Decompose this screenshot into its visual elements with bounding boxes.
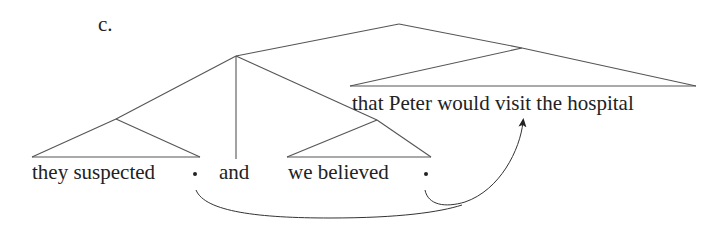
branch-root-left [236,24,399,56]
example-label: c. [98,12,113,36]
arrow-from-right-gap [425,122,523,205]
leaf-right-conjunct: we believed [288,160,389,184]
branch-root-right [399,24,522,48]
leaf-conjunction: and [219,160,249,184]
gap-marker-left [193,172,197,176]
triangle-left-conjunct-left [32,119,116,157]
triangle-left-conjunct-right [116,119,200,157]
gap-marker-right [424,172,428,176]
triangle-right-conjunct-left [287,120,377,157]
triangle-complement-left [350,48,522,86]
branch-coord-left [116,56,236,119]
triangle-right-conjunct-right [377,120,431,157]
arrow-from-left-gap [196,190,462,218]
triangle-complement-right [522,48,696,86]
leaf-shared-complement: that Peter would visit the hospital [352,91,634,115]
leaf-left-conjunct: they suspected [32,160,155,184]
